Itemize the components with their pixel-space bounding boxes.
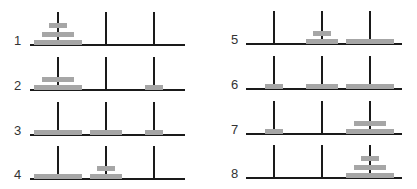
disk-large: [346, 129, 394, 134]
step-label: 7: [231, 123, 238, 136]
disk-medium: [306, 84, 338, 89]
step-label: 2: [14, 79, 21, 92]
step-label: 6: [231, 78, 238, 91]
peg-2: [321, 101, 323, 133]
disk-medium: [90, 174, 122, 179]
peg-1: [273, 11, 275, 43]
disk-medium: [90, 130, 122, 135]
peg-2: [321, 145, 323, 177]
disk-small: [361, 156, 379, 161]
step-label: 4: [14, 168, 21, 181]
disk-large: [346, 39, 394, 44]
disk-medium: [42, 77, 74, 82]
disk-medium: [306, 39, 338, 44]
step-label: 5: [231, 33, 238, 46]
disk-large: [34, 85, 82, 90]
step-label: 3: [14, 124, 21, 137]
peg-3: [153, 12, 155, 44]
disk-large: [34, 174, 82, 179]
disk-small: [145, 130, 163, 135]
peg-1: [273, 145, 275, 177]
peg-2: [105, 57, 107, 89]
step-label: 1: [14, 34, 21, 47]
disk-large: [346, 84, 394, 89]
disk-large: [346, 173, 394, 178]
step-label: 8: [231, 167, 238, 180]
disk-small: [313, 31, 331, 36]
disk-small: [265, 84, 283, 89]
disk-small: [145, 85, 163, 90]
disk-medium: [354, 121, 386, 126]
disk-large: [34, 40, 82, 45]
disk-large: [34, 130, 82, 135]
disk-small: [265, 129, 283, 134]
peg-3: [153, 146, 155, 178]
disk-medium: [42, 32, 74, 37]
disk-small: [97, 166, 115, 171]
disk-small: [49, 23, 67, 28]
peg-2: [105, 12, 107, 44]
disk-medium: [354, 165, 386, 170]
